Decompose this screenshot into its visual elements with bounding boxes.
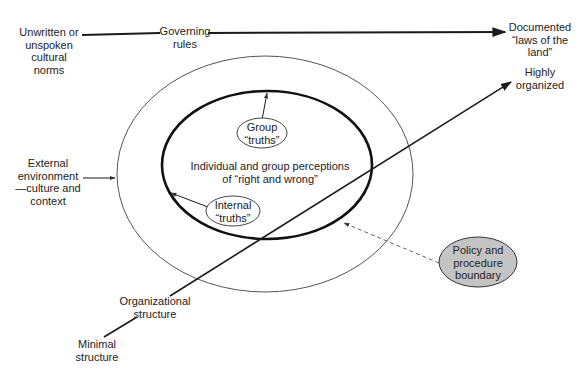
label-governing-rules: Governing rules [155, 25, 215, 50]
diagonal-axis-lower [104, 317, 137, 337]
label-perceptions-right-wrong: Individual and group perceptions of “rig… [180, 160, 360, 185]
diagram-canvas [0, 0, 583, 375]
label-external-environment: External environment —culture and contex… [12, 157, 84, 207]
top-axis-line-left [82, 33, 160, 35]
policy-boundary-dashed-arrow [344, 223, 439, 263]
label-organizational-structure: Organizational structure [115, 295, 195, 320]
label-unwritten-norms: Unwritten or unspoken cultural norms [14, 26, 84, 76]
top-axis-line-right [208, 32, 505, 33]
label-minimal-structure: Minimal structure [72, 338, 122, 363]
group-truths-arrow [262, 93, 267, 120]
label-group-truths: Group “truths” [237, 121, 287, 146]
label-documented-laws: Documented “laws of the land” [505, 21, 575, 59]
label-internal-truths: Internal “truths” [206, 199, 260, 224]
label-highly-organized: Highly organized [510, 66, 570, 91]
label-policy-boundary: Policy and procedure boundary [440, 244, 516, 282]
internal-truths-arrow [171, 193, 208, 207]
